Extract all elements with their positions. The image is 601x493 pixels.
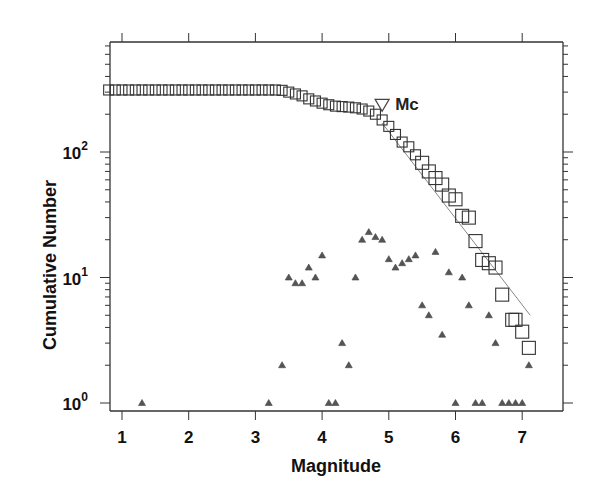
triangle-point: [385, 256, 392, 262]
triangle-point: [472, 400, 479, 406]
x-tick-label: 4: [317, 428, 327, 447]
square-point: [337, 102, 347, 112]
triangle-series: [139, 229, 533, 406]
triangle-point: [485, 312, 492, 318]
triangle-point: [499, 400, 506, 406]
x-tick-label: 5: [384, 428, 393, 447]
plot-frame: [110, 42, 563, 411]
triangle-point: [405, 256, 412, 262]
triangle-point: [332, 400, 339, 406]
square-point: [210, 85, 220, 95]
square-point: [144, 85, 154, 95]
triangle-point: [465, 302, 472, 308]
x-tick-label: 7: [517, 428, 526, 447]
mc-annotation: Mc: [375, 95, 419, 114]
square-point: [164, 85, 174, 95]
triangle-point: [339, 340, 346, 346]
square-point: [104, 85, 114, 95]
square-point: [344, 102, 354, 112]
square-point: [506, 313, 519, 326]
triangle-point: [432, 248, 439, 254]
triangle-point: [359, 236, 366, 242]
triangle-point: [425, 312, 432, 318]
triangle-point: [512, 400, 519, 406]
triangle-point: [459, 274, 466, 280]
triangle-point: [439, 331, 446, 337]
triangle-point: [305, 264, 312, 270]
triangle-point: [445, 269, 452, 275]
triangle-point: [452, 400, 459, 406]
square-point: [184, 85, 194, 95]
x-tick-label: 1: [117, 428, 126, 447]
triangle-point: [265, 400, 272, 406]
triangle-point: [345, 362, 352, 368]
triangle-point: [519, 400, 526, 406]
square-point: [117, 85, 127, 95]
triangle-point: [392, 264, 399, 270]
square-point: [177, 85, 187, 95]
y-axis-label: Cumulative Number: [40, 180, 60, 350]
triangle-point: [285, 274, 292, 280]
triangle-point: [139, 400, 146, 406]
y-tick-label: 100: [62, 390, 88, 414]
square-point: [137, 85, 147, 95]
square-point: [509, 313, 522, 326]
square-series: [104, 85, 536, 354]
square-point: [150, 85, 160, 95]
triangle-point: [412, 252, 419, 258]
square-point: [310, 96, 320, 106]
triangle-point: [312, 274, 319, 280]
square-point: [157, 85, 167, 95]
square-point: [204, 85, 214, 95]
square-point: [124, 85, 134, 95]
square-point: [197, 85, 207, 95]
square-point: [230, 85, 240, 95]
triangle-point: [279, 362, 286, 368]
y-axis-ticks: 100101102: [62, 46, 573, 414]
triangle-point: [525, 362, 532, 368]
triangle-point: [505, 400, 512, 406]
triangle-point: [292, 280, 299, 286]
square-point: [110, 85, 120, 95]
square-point: [244, 85, 254, 95]
square-point: [257, 85, 267, 95]
square-point: [370, 109, 380, 119]
triangle-point: [325, 400, 332, 406]
triangle-point: [399, 260, 406, 266]
triangle-point: [299, 280, 306, 286]
triangle-point: [492, 340, 499, 346]
triangle-point: [352, 274, 359, 280]
magnitude-frequency-chart: 1234567 100101102 Mc Magnitude Cumulativ…: [0, 0, 601, 493]
x-tick-label: 3: [251, 428, 260, 447]
x-tick-label: 2: [184, 428, 193, 447]
square-point: [496, 288, 509, 301]
square-point: [170, 85, 180, 95]
square-point: [217, 85, 227, 95]
square-point: [250, 85, 260, 95]
square-point: [130, 85, 140, 95]
square-point: [516, 325, 529, 338]
triangle-point: [365, 229, 372, 235]
triangle-point: [479, 400, 486, 406]
square-point: [522, 341, 535, 354]
x-axis-label: Magnitude: [291, 456, 381, 476]
triangle-point: [319, 252, 326, 258]
triangle-point: [379, 236, 386, 242]
square-point: [190, 85, 200, 95]
square-point: [270, 85, 280, 95]
mc-label: Mc: [395, 95, 419, 114]
y-tick-label: 102: [62, 139, 88, 163]
triangle-point: [419, 302, 426, 308]
square-point: [304, 94, 314, 104]
square-point: [237, 85, 247, 95]
square-point: [264, 85, 274, 95]
y-tick-label: 101: [62, 265, 88, 289]
square-point: [224, 85, 234, 95]
triangle-point: [372, 234, 379, 240]
square-point: [469, 235, 482, 248]
x-tick-label: 6: [451, 428, 460, 447]
